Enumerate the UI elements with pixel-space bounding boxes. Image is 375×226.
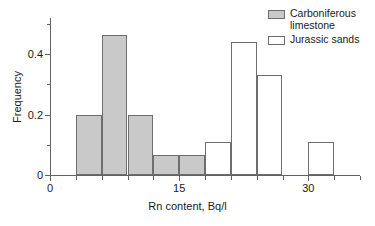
y-axis-line [50, 18, 51, 175]
x-tick-minor [360, 176, 361, 180]
x-tick-minor [257, 176, 258, 180]
bar [76, 115, 102, 175]
histogram-figure: Frequency 00.20.4 01530 Rn content, Bq/l… [0, 0, 375, 226]
bar [308, 142, 334, 175]
x-tick-minor [128, 176, 129, 180]
x-tick-minor [283, 176, 284, 180]
legend-item: Jurassic sands [268, 34, 373, 46]
x-axis-title: Rn content, Bq/l [0, 200, 375, 212]
bar [231, 42, 257, 175]
legend: Carboniferous limestoneJurassic sands [268, 8, 373, 49]
x-tick-minor [102, 176, 103, 180]
y-tick-major [45, 54, 50, 55]
x-tick-label: 30 [302, 183, 314, 194]
bar [205, 142, 231, 175]
y-tick-minor [47, 24, 50, 25]
x-tick-major [179, 176, 180, 181]
y-axis-title-label: Frequency [11, 71, 23, 123]
legend-item: Carboniferous limestone [268, 8, 373, 31]
x-tick-major [50, 176, 51, 181]
x-tick-minor [231, 176, 232, 180]
legend-label: Carboniferous limestone [290, 8, 356, 31]
y-tick-minor [47, 145, 50, 146]
x-tick-label: 0 [47, 183, 53, 194]
x-tick-minor [334, 176, 335, 180]
bar [257, 75, 283, 175]
x-tick-label: 15 [173, 183, 185, 194]
y-axis-title: Frequency [10, 18, 24, 175]
bar [102, 35, 128, 175]
legend-swatch-icon [268, 10, 285, 19]
legend-swatch-icon [268, 36, 285, 45]
x-tick-minor [153, 176, 154, 180]
y-tick-label: 0.4 [28, 49, 43, 60]
y-tick-major [45, 115, 50, 116]
bar [179, 155, 205, 175]
legend-label: Jurassic sands [290, 34, 359, 46]
x-tick-minor [205, 176, 206, 180]
bar [153, 155, 179, 175]
y-tick-minor [47, 84, 50, 85]
x-tick-minor [76, 176, 77, 180]
bar [128, 115, 154, 175]
x-axis-title-label: Rn content, Bq/l [148, 200, 226, 212]
x-tick-major [308, 176, 309, 181]
y-tick-label: 0.2 [28, 109, 43, 120]
y-tick-label: 0 [37, 170, 43, 181]
